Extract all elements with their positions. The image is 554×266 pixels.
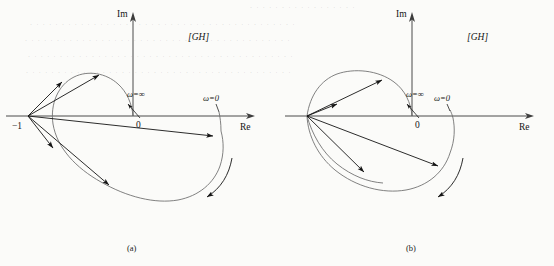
caption-b: (b): [406, 243, 416, 253]
page-bleed-text: . . . . . . . . . . . . . . . . . . . . …: [25, 34, 291, 43]
panel-b-phasor-2: [307, 80, 382, 116]
panel-a-direction-arrow: [207, 158, 232, 197]
panel-a-phasor-2: [28, 75, 99, 116]
panel-b-imag-axis-label: Im: [396, 9, 407, 19]
panel-a-omega-zero-leader: [216, 104, 219, 112]
panel-a-omega-zero-branch: [219, 112, 221, 131]
page-bleed-text: . . . . . . . . . . . . . . . . . . . . …: [28, 50, 294, 59]
panel-a-phasor-4: [28, 116, 53, 148]
panel-b: Im Re [GH] 0 ω=∞ ω=0: [285, 9, 534, 197]
panel-a-omega-zero-label: ω=0: [203, 93, 220, 103]
panel-b-origin-label: 0: [415, 120, 420, 130]
panel-b-omega-zero-leader: [447, 104, 450, 111]
panel-b-inner-branch: [307, 116, 383, 183]
panel-b-direction-arrow: [438, 158, 463, 197]
panel-a-phasor-vectors: [28, 75, 213, 185]
panel-b-omega-zero-branch: [450, 110, 453, 118]
page-bleed-text: . . . . . . . . . . . . . . . . . . . . …: [30, 18, 296, 27]
panel-a-critical-point-label: −1: [12, 121, 22, 131]
panel-a-origin-label: 0: [136, 120, 141, 130]
panel-a-real-axis-label: Re: [240, 122, 251, 132]
nyquist-figure: . . . . . . . . . . . . . . . . . . . . …: [0, 0, 554, 266]
panel-b-nyquist-locus: [307, 71, 412, 116]
page-bleed-text: . . . . . . . . . . . . . . . . .: [250, 1, 356, 10]
panel-b-real-axis-label: Re: [519, 122, 530, 132]
panel-b-phasor-3: [307, 116, 364, 172]
panel-b-omega-zero-label: ω=0: [434, 93, 451, 103]
panel-a-phasor-5: [28, 116, 213, 136]
panel-a-omega-infinity-label: ω=∞: [127, 89, 145, 99]
panel-b-nyquist-locus-lower: [307, 116, 454, 191]
panel-b-plane-label: [GH]: [467, 32, 488, 42]
panel-a-phasor-3: [28, 116, 109, 185]
panel-b-omega-infinity-label: ω=∞: [406, 89, 424, 99]
page-bleed-text: . . . . . . . . . . . . . . . . . . . . …: [26, 66, 292, 75]
caption-a: (a): [127, 243, 136, 253]
